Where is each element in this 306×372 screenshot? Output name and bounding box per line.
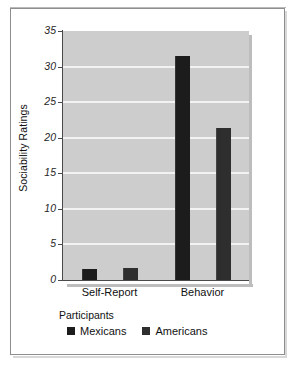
y-tick-label-30: 30	[32, 61, 56, 72]
bar-highlight	[123, 268, 124, 280]
bar-highlight	[216, 128, 217, 280]
bar-americans-behavior	[216, 128, 231, 280]
legend-items: Mexicans Americans	[59, 326, 207, 337]
x-axis-line	[62, 280, 250, 281]
y-tick-label-10: 10	[32, 203, 56, 214]
y-tick-mark-20	[58, 138, 62, 139]
bar-americans-self-report	[123, 268, 138, 280]
y-axis-tick-labels: 05101520253035	[28, 0, 56, 372]
plot-area-wrapper	[63, 31, 249, 280]
gridline-25	[63, 101, 249, 103]
legend-swatch-americans-icon	[142, 327, 150, 335]
figure-frame-shadow-right	[285, 11, 287, 357]
bar-highlight	[82, 269, 83, 280]
legend-swatch-mexicans-icon	[67, 327, 75, 335]
bar-mexicans-behavior	[175, 56, 190, 280]
bar-highlight	[175, 56, 176, 280]
y-tick-mark-30	[58, 67, 62, 68]
y-tick-mark-25	[58, 102, 62, 103]
plot-shadow-right	[249, 35, 252, 287]
gridline-30	[63, 66, 249, 68]
x-tick-label-self-report: Self-Report	[63, 286, 156, 298]
y-tick-mark-10	[58, 209, 62, 210]
y-tick-label-5: 5	[32, 238, 56, 249]
y-tick-mark-5	[58, 244, 62, 245]
y-tick-label-25: 25	[32, 96, 56, 107]
y-tick-label-15: 15	[32, 167, 56, 178]
y-tick-label-20: 20	[32, 132, 56, 143]
legend: Participants Mexicans Americans	[59, 310, 207, 337]
y-tick-mark-15	[58, 173, 62, 174]
plot-area	[63, 31, 249, 280]
bar-mexicans-self-report	[82, 269, 97, 280]
y-tick-mark-0	[58, 280, 62, 281]
y-tick-label-0: 0	[32, 274, 56, 285]
x-tick-label-behavior: Behavior	[156, 286, 249, 298]
legend-title: Participants	[59, 310, 207, 322]
legend-label-americans: Americans	[155, 326, 207, 337]
y-tick-mark-35	[58, 31, 62, 32]
y-tick-label-35: 35	[32, 25, 56, 36]
legend-item-americans: Americans	[142, 326, 207, 337]
figure-root: Sociability Ratings 05101520253035 Self-…	[0, 0, 306, 372]
legend-item-mexicans: Mexicans	[67, 326, 126, 337]
legend-label-mexicans: Mexicans	[80, 326, 126, 337]
